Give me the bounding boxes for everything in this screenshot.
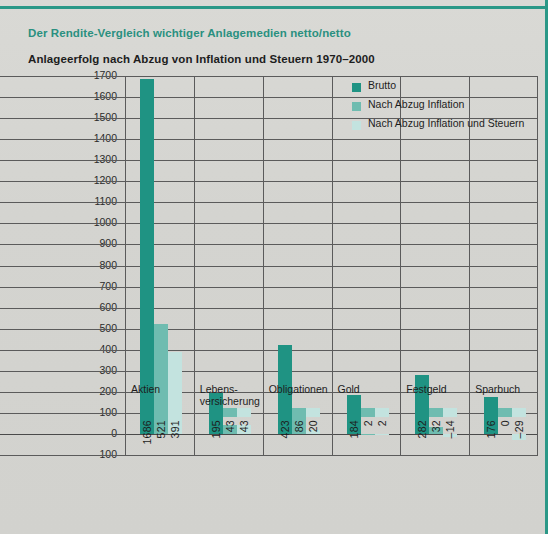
- x-axis-category-label: Gold: [338, 383, 360, 395]
- value-swatch-icon: [429, 408, 443, 417]
- value-swatch-icon: [498, 408, 512, 417]
- gridline: [0, 308, 538, 309]
- value-swatch-icon: [484, 408, 498, 417]
- value-swatch-icon: [278, 408, 292, 417]
- y-axis-tick-label: 900: [57, 237, 117, 249]
- legend-label: Brutto: [368, 79, 396, 91]
- value-label: 2: [362, 420, 374, 426]
- gridline: [0, 371, 538, 372]
- value-label: 521: [155, 420, 167, 438]
- y-axis-tick-label: 100: [57, 406, 117, 418]
- gridline: [0, 244, 538, 245]
- value-label: –29: [513, 420, 525, 438]
- value-label: 43: [238, 420, 250, 432]
- chart-page: Der Rendite-Vergleich wichtiger Anlageme…: [0, 0, 548, 534]
- value-label: 423: [279, 420, 291, 438]
- gridline: [0, 329, 538, 330]
- value-label: 86: [293, 420, 305, 432]
- chart-legend: BruttoNach Abzug InflationNach Abzug Inf…: [352, 79, 542, 136]
- value-swatch-icon: [168, 408, 182, 417]
- chart-eyebrow-title: Der Rendite-Vergleich wichtiger Anlageme…: [28, 27, 351, 39]
- value-swatch-icon: [512, 408, 526, 417]
- legend-label: Nach Abzug Inflation und Steuern: [368, 117, 524, 129]
- value-swatch-icon: [292, 408, 306, 417]
- y-axis-tick-label: 1500: [57, 111, 117, 123]
- value-label: 2: [376, 420, 388, 426]
- value-table: 1686521391195434342386201842228232–14176…: [125, 408, 538, 534]
- value-swatch-icon: [415, 408, 429, 417]
- y-axis-tick-label: 400: [57, 343, 117, 355]
- value-swatch-icon: [306, 408, 320, 417]
- value-label: –14: [444, 420, 456, 438]
- y-axis-tick-label: 0: [57, 427, 117, 439]
- top-accent-rule: [0, 6, 548, 9]
- y-axis-tick-label: –100: [57, 448, 117, 460]
- value-label: 32: [430, 420, 442, 432]
- gridline: [0, 266, 538, 267]
- value-label: 43: [224, 420, 236, 432]
- value-swatch-icon: [140, 408, 154, 417]
- value-swatch-icon: [237, 408, 251, 417]
- y-axis-tick-label: 1700: [57, 69, 117, 81]
- value-swatch-icon: [154, 408, 168, 417]
- value-label: 391: [169, 420, 181, 438]
- gridline: [0, 287, 538, 288]
- value-label: 176: [485, 420, 497, 438]
- y-axis-tick-label: 1100: [57, 195, 117, 207]
- y-axis-tick-label: 1400: [57, 132, 117, 144]
- y-axis-tick-label: 1300: [57, 153, 117, 165]
- gridline: [0, 76, 538, 77]
- y-axis-tick-label: 700: [57, 280, 117, 292]
- x-axis-category-label: Lebens-versicherung: [200, 383, 260, 407]
- y-axis-tick-label: 300: [57, 364, 117, 376]
- value-label: 195: [210, 420, 222, 438]
- value-swatch-icon: [209, 408, 223, 417]
- gridline: [0, 160, 538, 161]
- value-label: 184: [348, 420, 360, 438]
- legend-swatch-icon: [352, 102, 361, 111]
- gridline: [0, 181, 538, 182]
- gridline: [0, 223, 538, 224]
- x-axis-category-label: Aktien: [131, 383, 160, 395]
- value-swatch-icon: [375, 408, 389, 417]
- legend-item-0[interactable]: Brutto: [352, 79, 542, 98]
- legend-label: Nach Abzug Inflation: [368, 98, 464, 110]
- x-axis-category-label: Festgeld: [406, 383, 446, 395]
- y-axis-tick-label: 1000: [57, 216, 117, 228]
- value-swatch-icon: [223, 408, 237, 417]
- y-axis-tick-label: 1600: [57, 90, 117, 102]
- y-axis-tick-label: 200: [57, 385, 117, 397]
- legend-swatch-icon: [352, 83, 361, 92]
- value-swatch-icon: [361, 408, 375, 417]
- chart-title: Anlageerfolg nach Abzug von Inflation un…: [28, 53, 375, 65]
- y-axis-tick-label: 800: [57, 259, 117, 271]
- value-swatch-icon: [443, 408, 457, 417]
- value-swatch-icon: [347, 408, 361, 417]
- x-axis-category-label: Obligationen: [269, 383, 328, 395]
- legend-item-2[interactable]: Nach Abzug Inflation und Steuern: [352, 117, 542, 136]
- gridline: [0, 350, 538, 351]
- y-axis-tick-label: 600: [57, 301, 117, 313]
- gridline: [0, 139, 538, 140]
- value-label: 20: [307, 420, 319, 432]
- value-label: 282: [416, 420, 428, 438]
- value-label: 0: [499, 420, 511, 426]
- legend-swatch-icon: [352, 121, 361, 130]
- legend-item-1[interactable]: Nach Abzug Inflation: [352, 98, 542, 117]
- y-axis-tick-label: 1200: [57, 174, 117, 186]
- y-axis-tick-label: 500: [57, 322, 117, 334]
- x-axis-category-label: Sparbuch: [475, 383, 520, 395]
- value-label: 1686: [141, 420, 153, 445]
- gridline: [0, 202, 538, 203]
